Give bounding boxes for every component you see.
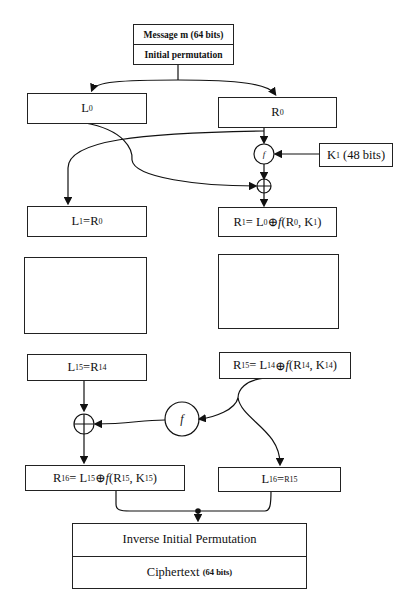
l15-a: L bbox=[67, 360, 75, 375]
l16-box: L16 = R15 bbox=[218, 467, 341, 492]
inverse-permutation-label: Inverse Initial Permutation bbox=[73, 524, 306, 556]
l15-b: R bbox=[90, 360, 98, 375]
l1-eq: = bbox=[83, 214, 90, 229]
l15-sub-b: 14 bbox=[99, 363, 107, 372]
l16-b: R15 bbox=[284, 475, 297, 484]
f-function-icon-1: f bbox=[263, 149, 266, 159]
k1-box: K1 (48 bits) bbox=[319, 143, 393, 167]
l1-sub-b: 0 bbox=[99, 217, 103, 226]
r1-close: ) bbox=[317, 215, 321, 230]
l16-a: L bbox=[261, 472, 269, 487]
k1-sub: 1 bbox=[336, 151, 340, 160]
r15-a: R bbox=[233, 358, 241, 373]
r0-base: R bbox=[271, 105, 279, 120]
rounds-ellipsis-right bbox=[218, 254, 339, 329]
l1-b: R bbox=[90, 214, 98, 229]
r1-op: ⊕ bbox=[268, 214, 278, 230]
r16-sub-k: 15 bbox=[145, 474, 153, 483]
r16-sub-a: 16 bbox=[61, 474, 69, 483]
r15-close: ) bbox=[333, 358, 337, 373]
r15-sub-l: 14 bbox=[267, 361, 275, 370]
r15-op: ⊕ bbox=[275, 358, 285, 374]
r15-sub-a: 15 bbox=[241, 361, 249, 370]
message-label: Message m (64 bits) bbox=[134, 25, 233, 44]
rounds-ellipsis-left bbox=[24, 257, 147, 334]
k1-suffix: (48 bits) bbox=[343, 148, 385, 163]
r16-sub-r: 15 bbox=[122, 474, 130, 483]
r15-comma: , K bbox=[310, 358, 325, 373]
r16-op: ⊕ bbox=[95, 470, 105, 486]
initial-permutation-label: Initial permutation bbox=[134, 44, 233, 64]
ciphertext-bits: (64 bits) bbox=[203, 567, 233, 577]
r15-sub-k: 14 bbox=[325, 361, 333, 370]
r0-box: R0 bbox=[218, 97, 337, 128]
r1-comma: , K bbox=[298, 215, 313, 230]
ciphertext-row: Ciphertext (64 bits) bbox=[73, 556, 306, 589]
k1-base: K bbox=[327, 148, 336, 163]
l16-eq: = bbox=[277, 472, 284, 487]
f-function-icon-2: f bbox=[180, 412, 183, 427]
r16-sub-l: 15 bbox=[87, 474, 95, 483]
r0-sub: 0 bbox=[280, 108, 284, 117]
r15-args: (R bbox=[289, 358, 302, 373]
output-block: Inverse Initial Permutation Ciphertext (… bbox=[72, 523, 307, 589]
r16-a: R bbox=[53, 471, 61, 486]
r1-eq: = L bbox=[246, 215, 264, 230]
r1-args: (R bbox=[282, 215, 295, 230]
l0-base: L bbox=[81, 101, 89, 116]
r15-eq: = L bbox=[249, 358, 267, 373]
input-block: Message m (64 bits) Initial permutation bbox=[133, 24, 234, 65]
ciphertext-label: Ciphertext bbox=[147, 565, 200, 580]
l0-sub: 0 bbox=[89, 104, 93, 113]
r16-args: (R bbox=[109, 471, 122, 486]
r15-box: R15 = L14 ⊕ f(R14, K14) bbox=[219, 352, 351, 379]
l15-box: L15 = R14 bbox=[27, 354, 147, 381]
l16-sub-a: 16 bbox=[269, 475, 277, 484]
r15-sub-r: 14 bbox=[302, 361, 310, 370]
l15-eq: = bbox=[83, 360, 90, 375]
l15-sub-a: 15 bbox=[75, 363, 83, 372]
r16-close: ) bbox=[153, 471, 157, 486]
r16-eq: = L bbox=[69, 471, 87, 486]
l1-box: L1 = R0 bbox=[27, 206, 147, 237]
r16-comma: , K bbox=[130, 471, 145, 486]
l0-box: L0 bbox=[27, 93, 147, 124]
l1-a: L bbox=[71, 214, 79, 229]
r16-box: R16 = L15 ⊕ f(R15, K15) bbox=[25, 465, 185, 491]
r1-a: R bbox=[233, 215, 241, 230]
r1-box: R1 = L0 ⊕ f(R0, K1) bbox=[218, 207, 337, 237]
